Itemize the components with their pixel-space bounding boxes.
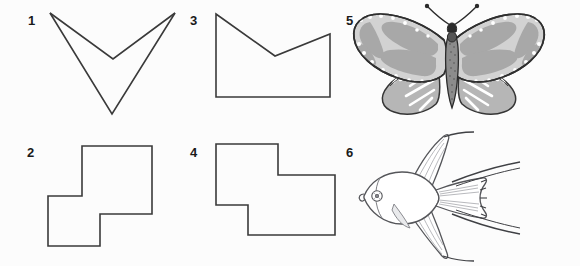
figure-cell-1: 1 (0, 0, 190, 130)
butterfly-body (446, 34, 459, 108)
staircase-shape (0, 130, 190, 266)
notched-rectangle-shape (180, 0, 355, 130)
figure-cell-3: 3 (180, 0, 355, 130)
figure-cell-6: 6 (340, 130, 580, 266)
worksheet-canvas: 1 3 5 (0, 0, 580, 266)
butterfly-illustration (340, 0, 580, 130)
figure-cell-5: 5 (340, 0, 580, 130)
chevron-shape (0, 0, 190, 130)
wide-staircase-shape (180, 130, 355, 266)
angelfish-illustration (340, 130, 580, 266)
figure-cell-4: 4 (180, 130, 355, 266)
figure-cell-2: 2 (0, 130, 190, 266)
butterfly-antennae (428, 7, 476, 25)
